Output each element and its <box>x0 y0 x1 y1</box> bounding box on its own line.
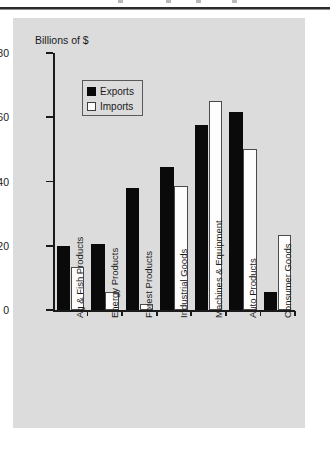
x-axis-category-label: Machines & Equipment <box>213 220 224 318</box>
x-axis-tick <box>260 311 262 316</box>
bar-exports <box>91 244 105 310</box>
bar-exports <box>126 188 140 310</box>
x-axis-tick <box>190 311 192 316</box>
x-axis-tick <box>121 311 123 316</box>
x-axis-tick <box>225 311 227 316</box>
bar-exports <box>264 292 278 310</box>
x-axis-category-label: Ag & Fish Products <box>74 237 85 318</box>
legend-item-imports: Imports <box>87 99 133 113</box>
header-rule-shadow <box>0 9 330 10</box>
y-axis-tick-label: 80 <box>0 47 9 59</box>
chart-legend: Exports Imports <box>82 80 143 116</box>
y-axis-tick <box>46 309 53 311</box>
x-axis-tick <box>294 311 296 316</box>
x-axis-category-label: Industrial Goods <box>178 249 189 318</box>
y-axis-tick-label: 0 <box>0 304 9 316</box>
x-axis-category-label: Energy Products <box>109 248 120 318</box>
y-axis-tick <box>46 245 53 247</box>
figure-panel: Billions of $ 020406080 Ag & Fish Produc… <box>13 18 305 428</box>
filled-square-icon <box>87 87 96 96</box>
y-axis-tick-label: 40 <box>0 176 9 188</box>
x-axis-category-label: Auto Products <box>247 258 258 318</box>
y-axis-tick <box>46 116 53 118</box>
y-axis-title: Billions of $ <box>35 34 89 46</box>
bar-exports <box>160 167 174 310</box>
x-axis-tick <box>87 311 89 316</box>
scan-artifacts <box>0 0 330 12</box>
x-axis-tick <box>156 311 158 316</box>
bar-exports <box>229 112 243 310</box>
legend-label-exports: Exports <box>100 86 134 97</box>
y-axis-tick <box>46 181 53 183</box>
legend-item-exports: Exports <box>87 84 134 98</box>
x-axis-category-label: Forest Products <box>143 251 154 318</box>
plot-area: Billions of $ 020406080 Ag & Fish Produc… <box>13 18 305 428</box>
legend-label-imports: Imports <box>100 101 133 112</box>
y-axis-tick-label: 20 <box>0 240 9 252</box>
y-axis-tick-label: 60 <box>0 111 9 123</box>
bar-exports <box>195 125 209 310</box>
open-square-icon <box>87 102 96 111</box>
y-axis-tick <box>46 52 53 54</box>
bar-exports <box>57 246 71 310</box>
y-axis-line <box>53 53 55 311</box>
x-axis-category-label: Consumer Goods <box>282 244 293 318</box>
